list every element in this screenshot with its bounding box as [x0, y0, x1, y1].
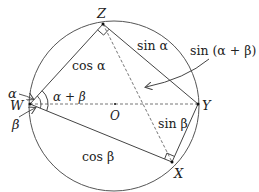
- ptolemy-diagram: W Z Y X O cos α sin α sin (α + β) cos β …: [0, 0, 259, 192]
- label-cos-beta: cos β: [82, 149, 114, 164]
- point-O: [114, 103, 116, 105]
- label-sin-alpha: sin α: [137, 38, 168, 53]
- label-sin-beta: sin β: [158, 116, 188, 131]
- angle-arc-alpha: [37, 96, 41, 104]
- point-Y: [197, 103, 200, 106]
- right-angle-Z: [98, 29, 110, 35]
- label-alpha: α: [8, 86, 17, 101]
- label-alpha-plus-beta: α + β: [53, 90, 86, 104]
- label-O: O: [110, 109, 120, 123]
- label-Z: Z: [96, 6, 107, 21]
- side-ZY: [103, 24, 198, 104]
- point-Z: [102, 23, 105, 26]
- point-W: [29, 103, 32, 106]
- label-cos-alpha: cos α: [72, 58, 106, 73]
- sin-alpha-plus-beta-arrow: [146, 59, 209, 87]
- label-sin-alpha-plus-beta: sin (α + β): [190, 43, 256, 58]
- point-X: [171, 161, 174, 164]
- label-X: X: [173, 166, 184, 181]
- label-Y: Y: [202, 98, 212, 113]
- label-beta: β: [11, 117, 20, 132]
- angle-arc-beta: [40, 104, 41, 108]
- angle-arc-alpha-plus-beta: [42, 91, 48, 111]
